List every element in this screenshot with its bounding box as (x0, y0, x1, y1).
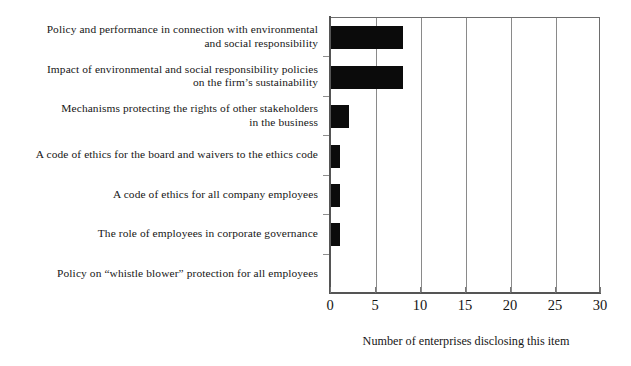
bar-chart-figure: Policy and performance in connection wit… (0, 0, 631, 366)
x-axis-tick-label: 10 (400, 297, 440, 314)
x-gridline (556, 18, 557, 292)
category-label-line: Policy and performance in connection wit… (8, 23, 318, 37)
x-axis-tick (420, 287, 421, 293)
x-axis-tick-label: 30 (580, 297, 620, 314)
y-axis-tick (323, 214, 329, 215)
x-gridline (376, 18, 377, 292)
x-axis-title: Number of enterprises disclosing this it… (330, 334, 602, 349)
x-axis-tick (510, 287, 511, 293)
category-label-line: Impact of environmental and social respo… (8, 63, 318, 77)
y-axis-tick (323, 175, 329, 176)
x-axis-tick-label: 0 (310, 297, 350, 314)
x-axis-tick-label: 5 (355, 297, 395, 314)
category-label-line: in the business (8, 116, 318, 130)
category-label-line: Policy on “whistle blower” protection fo… (8, 267, 318, 281)
y-axis-line (329, 16, 331, 294)
x-axis-tick (330, 287, 331, 293)
category-label: Policy on “whistle blower” protection fo… (8, 267, 318, 281)
category-label-column: Policy and performance in connection wit… (8, 17, 324, 293)
category-label: Impact of environmental and social respo… (8, 63, 318, 90)
x-axis-tick (375, 287, 376, 293)
y-axis-tick (323, 56, 329, 57)
category-label-line: A code of ethics for the board and waive… (8, 148, 318, 162)
category-label: Mechanisms protecting the rights of othe… (8, 102, 318, 129)
x-gridline (511, 18, 512, 292)
category-label: Policy and performance in connection wit… (8, 23, 318, 50)
category-label-line: Mechanisms protecting the rights of othe… (8, 102, 318, 116)
x-axis-tick-label: 15 (445, 297, 485, 314)
category-label-line: The role of employees in corporate gover… (8, 227, 318, 241)
x-axis-tick (555, 287, 556, 293)
y-axis-tick (323, 254, 329, 255)
bar (331, 105, 349, 128)
x-gridline (466, 18, 467, 292)
y-axis-tick (323, 135, 329, 136)
bar (331, 66, 403, 89)
category-label-line: and social responsibility (8, 37, 318, 51)
category-label-line: on the firm’s sustainability (8, 76, 318, 90)
bar (331, 223, 340, 246)
plot-area (330, 17, 600, 293)
x-axis-tick-label: 25 (535, 297, 575, 314)
bar (331, 184, 340, 207)
y-axis-tick (323, 96, 329, 97)
category-label: A code of ethics for the board and waive… (8, 148, 318, 162)
bar (331, 145, 340, 168)
category-label: A code of ethics for all company employe… (8, 188, 318, 202)
x-axis-tick (465, 287, 466, 293)
x-axis-tick-label: 20 (490, 297, 530, 314)
x-axis-tick (600, 287, 601, 293)
x-gridline (421, 18, 422, 292)
bar (331, 26, 403, 49)
category-label: The role of employees in corporate gover… (8, 227, 318, 241)
category-label-line: A code of ethics for all company employe… (8, 188, 318, 202)
